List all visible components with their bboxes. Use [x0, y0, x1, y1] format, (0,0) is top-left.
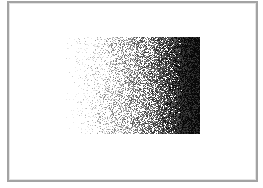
stippled-gradient — [0, 0, 263, 188]
image-stage — [0, 0, 263, 188]
